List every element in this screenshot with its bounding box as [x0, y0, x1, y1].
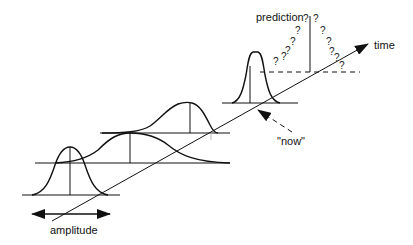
- question-mark: ?: [303, 13, 309, 24]
- time-series-prediction-diagram: time prediction ? ? ? ? ? ? ? ?: [0, 0, 413, 245]
- now-label: "now": [277, 135, 305, 147]
- question-mark: ?: [320, 25, 326, 36]
- amplitude-label: amplitude: [50, 224, 98, 236]
- prediction-label: prediction: [256, 11, 304, 23]
- question-mark: ?: [339, 60, 345, 71]
- distribution-slice-now: [222, 52, 298, 103]
- distribution-slice-1: [22, 147, 120, 195]
- question-mark: ?: [313, 13, 319, 24]
- time-label: time: [374, 39, 395, 51]
- now-pointer-arrow: [258, 110, 292, 132]
- question-mark: ?: [290, 36, 296, 47]
- question-mark: ?: [295, 25, 301, 36]
- question-mark: ?: [273, 56, 279, 67]
- question-mark: ?: [281, 51, 287, 62]
